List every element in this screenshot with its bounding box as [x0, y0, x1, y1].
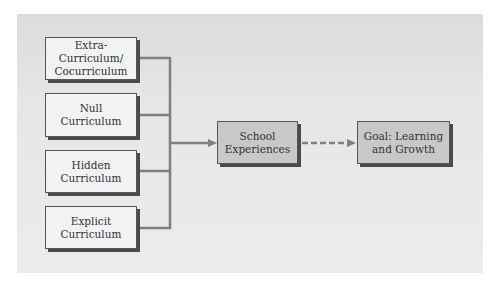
source-box-null-curriculum: Null Curriculum [45, 93, 137, 137]
box-text-line: Explicit [61, 215, 122, 228]
box-text-line: Curriculum [61, 228, 122, 241]
box-text-line: Curriculum [61, 172, 122, 185]
arrowhead-to-school [208, 139, 217, 147]
box-text-line: Curriculum [61, 115, 122, 128]
box-text-line: Curriculum/ [54, 52, 127, 65]
goal-box: Goal: Learning and Growth [357, 121, 450, 164]
box-text-line: Hidden [61, 159, 122, 172]
box-text-line: Null [61, 102, 122, 115]
school-experiences-box: School Experiences [217, 121, 298, 164]
source-box-extra-curriculum: Extra- Curriculum/ Cocurriculum [45, 37, 137, 80]
box-text-line: and Growth [364, 143, 443, 156]
box-text-line: School [225, 130, 290, 143]
box-text-line: Goal: Learning [364, 130, 443, 143]
box-text-line: Extra- [54, 39, 127, 52]
arrowhead-to-goal [347, 139, 356, 147]
box-text-line: Cocurriculum [54, 65, 127, 78]
source-box-explicit-curriculum: Explicit Curriculum [45, 206, 137, 249]
source-box-hidden-curriculum: Hidden Curriculum [45, 150, 137, 193]
box-text-line: Experiences [225, 143, 290, 156]
